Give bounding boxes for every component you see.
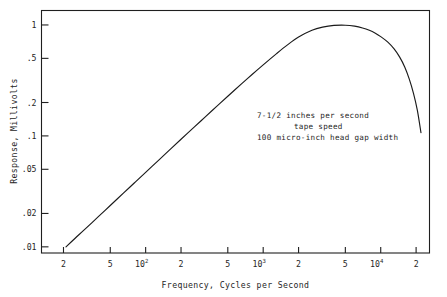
y-tick-label-3: .1 xyxy=(27,131,37,141)
chart-figure: 1.5.2.1.05.02.01 2510225103251042 Freque… xyxy=(0,0,447,297)
y-axis-ticks xyxy=(42,25,49,247)
y-tick-label-2: .2 xyxy=(27,98,37,108)
y-tick-label-0: 1 xyxy=(32,20,37,30)
y-tick-label-6: .01 xyxy=(22,242,37,252)
y-tick-label-4: .05 xyxy=(22,164,37,174)
x-tick-label-3: 2 xyxy=(179,259,184,269)
x-tick-label-1: 5 xyxy=(108,259,113,269)
x-tick-label-7: 5 xyxy=(343,259,348,269)
response-vs-frequency-chart: 1.5.2.1.05.02.01 2510225103251042 Freque… xyxy=(0,0,447,297)
annotation-line-2: tape speed xyxy=(294,122,343,131)
annotation-line-1: 7-1/2 inches per second xyxy=(257,111,369,120)
x-tick-label-0: 2 xyxy=(61,259,66,269)
y-tick-label-1: .5 xyxy=(27,53,37,63)
annotation-line-3: 100 micro-inch head gap width xyxy=(257,133,398,142)
x-axis-title: Frequency, Cycles per Second xyxy=(162,280,310,290)
y-tick-label-5: .02 xyxy=(22,208,37,218)
x-tick-label-9: 2 xyxy=(414,259,419,269)
y-axis-title: Response, Millivolts xyxy=(9,78,19,184)
x-tick-label-4: 5 xyxy=(225,259,230,269)
x-tick-label-6: 2 xyxy=(296,259,301,269)
